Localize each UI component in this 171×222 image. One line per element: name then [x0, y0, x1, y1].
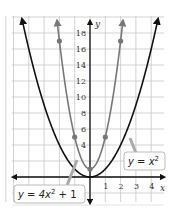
data-point — [103, 134, 108, 139]
svg-text:16: 16 — [76, 45, 86, 54]
data-point — [118, 38, 123, 43]
svg-text:12: 12 — [76, 77, 86, 86]
svg-text:y = x2: y = x2 — [127, 155, 159, 167]
data-point — [57, 38, 62, 43]
svg-text:3: 3 — [134, 182, 139, 191]
data-point — [87, 166, 92, 171]
svg-text:10: 10 — [76, 93, 86, 102]
label-y-equals-x-squared: y = x2 — [124, 138, 165, 170]
svg-text:1: 1 — [103, 182, 108, 191]
svg-text:2: 2 — [119, 182, 124, 191]
svg-text:4: 4 — [149, 182, 154, 191]
x-axis-label: x — [160, 183, 165, 193]
y-axis-label: y — [94, 19, 101, 29]
data-point — [72, 134, 77, 139]
svg-text:y = 4x2 + 1: y = 4x2 + 1 — [17, 188, 77, 200]
svg-text:6: 6 — [81, 125, 86, 134]
svg-text:8: 8 — [81, 109, 86, 118]
svg-text:18: 18 — [76, 29, 86, 38]
svg-text:4: 4 — [81, 141, 86, 150]
svg-text:14: 14 — [76, 61, 86, 70]
chart: 12344681012141618 y x y = x2 y = 4x2 + 1 — [0, 0, 171, 222]
